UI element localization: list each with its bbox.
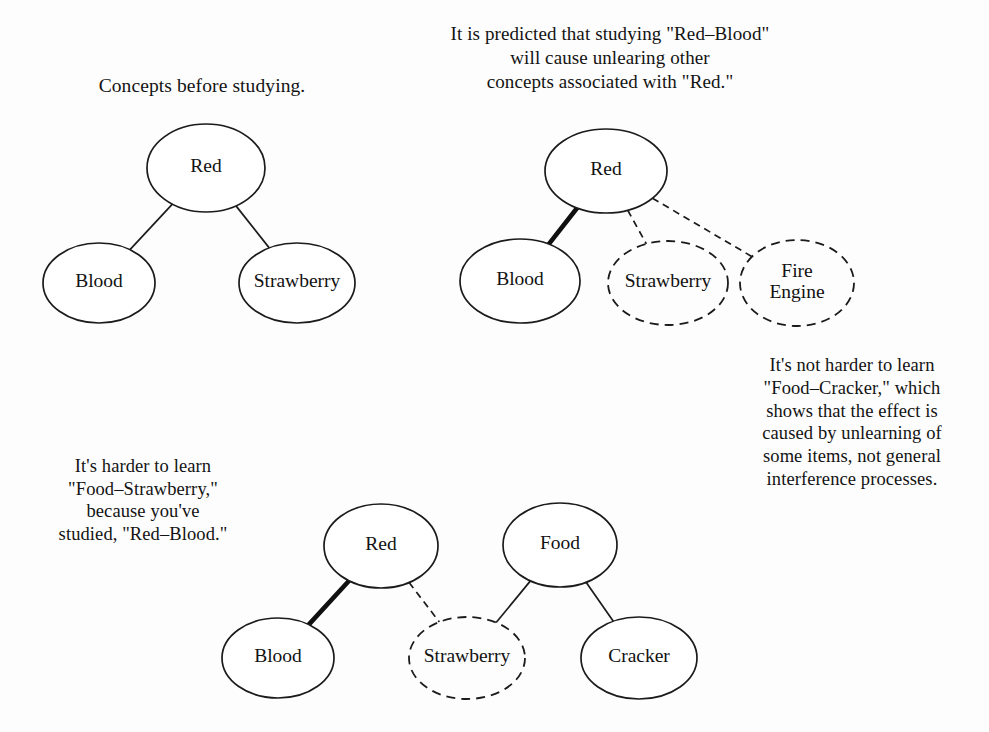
caption-prediction: It is predicted that studying "Red–Blood… [395, 22, 825, 94]
node-strawberry[interactable]: Strawberry [608, 241, 728, 325]
node-food[interactable]: Food [503, 503, 617, 587]
node-label-food: Food [540, 532, 580, 553]
node-label-red: Red [365, 533, 397, 554]
figure-canvas: Concepts before studying. It is predicte… [0, 0, 989, 732]
node-label-cracker: Cracker [608, 645, 670, 666]
edge-food-to-strawberry [496, 581, 530, 623]
node-blood[interactable]: Blood [43, 243, 155, 323]
node-label-blood: Blood [254, 645, 302, 666]
node-cracker[interactable]: Cracker [581, 617, 697, 699]
edge-red-to-strawberry [236, 206, 269, 248]
caption-harder-to-learn-food-strawberry: It's harder to learn "Food–Strawberry," … [28, 455, 258, 545]
node-blood[interactable]: Blood [460, 239, 580, 323]
edge-red-to-strawberry [409, 583, 439, 622]
edge-red-to-blood [130, 204, 172, 250]
node-blood[interactable]: Blood [222, 618, 334, 698]
node-label-red: Red [590, 158, 622, 179]
node-label-blood: Blood [75, 270, 123, 291]
node-label-blood: Blood [496, 268, 544, 289]
edge-red-to-blood [549, 208, 577, 244]
node-label-strawberry: Strawberry [254, 270, 341, 291]
node-red[interactable]: Red [545, 129, 667, 213]
caption-not-harder-to-learn-food-cracker: It's not harder to learn "Food–Cracker,"… [728, 354, 976, 491]
edge-red-to-strawberry [628, 210, 647, 244]
edges-group [130, 198, 752, 624]
edge-red-to-blood [309, 581, 349, 625]
node-label-fire-engine: FireEngine [769, 260, 824, 302]
node-strawberry[interactable]: Strawberry [239, 243, 355, 323]
node-fire-engine[interactable]: FireEngine [740, 240, 854, 326]
node-label-strawberry: Strawberry [625, 270, 712, 291]
node-label-red: Red [190, 155, 222, 176]
node-red[interactable]: Red [324, 504, 438, 588]
node-red[interactable]: Red [147, 124, 265, 212]
caption-before-studying: Concepts before studying. [52, 74, 352, 98]
edge-food-to-cracker [586, 582, 613, 621]
node-label-strawberry: Strawberry [424, 645, 511, 666]
node-strawberry[interactable]: Strawberry [409, 617, 525, 699]
